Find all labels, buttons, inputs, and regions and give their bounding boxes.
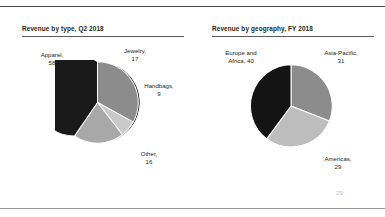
chart-plot-left: Apparel, 58 Jewelry, 17 Handbags, 9 Othe… xyxy=(22,37,184,187)
pie-label-asia-pacific-value: 31 xyxy=(312,57,370,65)
pie-chart-revenue-by-geography xyxy=(248,63,334,149)
pie-label-asia-pacific: Asia-Pacific, 31 xyxy=(312,49,370,66)
pie-slices-right xyxy=(250,65,332,147)
pie-label-handbags-name: Handbags, xyxy=(144,82,173,89)
pie-label-handbags-value: 9 xyxy=(134,90,184,98)
pie-svg-left-accurate xyxy=(55,60,140,145)
pie-label-asia-pacific-name: Asia-Pacific, xyxy=(324,49,358,56)
pie-label-apparel: Apparel, 58 xyxy=(24,51,80,68)
pie-label-jewelry-name: Jewelry, xyxy=(124,47,146,54)
pie-label-jewelry-value: 17 xyxy=(110,55,160,63)
chart-panel-revenue-by-type: Revenue by type, Q2 2018 xyxy=(22,24,184,187)
pie-label-europe-africa-value: Africa, 40 xyxy=(208,57,274,65)
pie-label-apparel-name: Apparel, xyxy=(41,51,64,58)
pie-label-other-value: 16 xyxy=(126,158,172,166)
pie-label-americas-value: 29 xyxy=(310,163,366,171)
pie-label-europe-africa: Europe and Africa, 40 xyxy=(208,49,274,66)
pie-label-jewelry: Jewelry, 17 xyxy=(110,47,160,64)
pie-label-other-name: Other, xyxy=(141,150,158,157)
chart-title-right: Revenue by geography, FY 2018 xyxy=(212,24,374,36)
chart-plot-right: Europe and Africa, 40 Asia-Pacific, 31 A… xyxy=(212,37,374,187)
page-number: 29 xyxy=(336,190,343,196)
pie-label-apparel-value: 58 xyxy=(24,59,80,67)
page-rule-bottom xyxy=(0,208,385,209)
figure-page: 29 Revenue by type, Q2 2018 xyxy=(0,0,385,217)
pie-svg-right xyxy=(248,63,334,149)
pie-slices-left xyxy=(55,60,138,143)
chart-panel-revenue-by-geography: Revenue by geography, FY 2018 xyxy=(212,24,374,187)
pie-chart-left-layers xyxy=(55,60,140,145)
pie-label-europe-africa-name: Europe and xyxy=(225,49,257,56)
pie-label-other: Other, 16 xyxy=(126,150,172,167)
pie-label-americas: Americas, 29 xyxy=(310,155,366,172)
pie-label-handbags: Handbags, 9 xyxy=(134,82,184,99)
page-rule-top xyxy=(0,6,385,7)
pie-label-americas-name: Americas, xyxy=(324,155,351,162)
chart-title-left: Revenue by type, Q2 2018 xyxy=(22,24,184,36)
